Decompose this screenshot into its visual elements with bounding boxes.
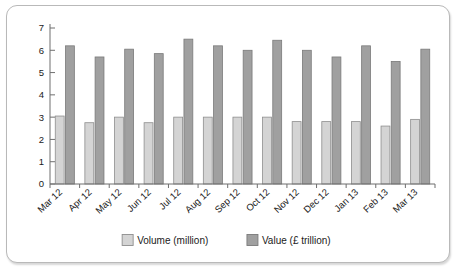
bar-volume-jul-12 [174, 117, 183, 184]
bar-volume-mar-12 [55, 116, 64, 184]
x-category-label: Jan 13 [332, 186, 360, 214]
bar-value-sep-12 [243, 50, 252, 184]
bar-value-jul-12 [184, 39, 193, 184]
x-category-label: Apr 12 [66, 186, 94, 213]
bar-value-aug-12 [214, 46, 223, 184]
y-tick-label: 4 [39, 89, 44, 100]
y-tick-label: 6 [39, 45, 44, 56]
bar-value-feb-13 [391, 61, 400, 184]
x-category-label: Aug 12 [183, 186, 213, 215]
bar-volume-mar-13 [411, 119, 420, 184]
chart-card: 01234567 Mar 12Apr 12May 12Jun 12Jul 12A… [6, 5, 450, 263]
x-category-label: Sep 12 [212, 186, 242, 215]
legend-swatch-value [247, 235, 258, 246]
bar-volume-dec-12 [322, 122, 331, 184]
y-tick-label: 7 [39, 22, 44, 33]
x-axis-category-labels: Mar 12Apr 12May 12Jun 12Jul 12Aug 12Sep … [35, 186, 420, 215]
bars-layer [55, 39, 429, 184]
bar-value-oct-12 [273, 40, 282, 184]
bar-volume-feb-13 [381, 126, 390, 184]
bar-value-mar-12 [65, 46, 74, 184]
y-tick-label: 5 [39, 67, 44, 78]
y-tick-label: 2 [39, 134, 44, 145]
bar-volume-jun-12 [144, 123, 153, 184]
x-category-label: May 12 [93, 186, 123, 215]
bar-value-jan-13 [362, 46, 371, 184]
legend-label: Volume (million) [137, 235, 208, 246]
x-category-label: Feb 13 [361, 186, 390, 214]
legend-swatch-volume [122, 235, 133, 246]
legend-label: Value (£ trillion) [262, 235, 331, 246]
bar-value-nov-12 [302, 50, 311, 184]
y-tick-label: 0 [39, 178, 44, 189]
bar-volume-jan-13 [351, 122, 360, 184]
bar-volume-aug-12 [203, 117, 212, 184]
y-tick-label: 1 [39, 156, 44, 167]
bar-value-dec-12 [332, 57, 341, 184]
x-category-label: Oct 12 [243, 186, 271, 213]
x-category-label: Mar 13 [390, 186, 419, 214]
y-axis-ticks: 01234567 [39, 22, 55, 189]
x-category-label: Nov 12 [272, 186, 302, 215]
grouped-bar-chart: 01234567 Mar 12Apr 12May 12Jun 12Jul 12A… [7, 6, 449, 262]
bar-value-jun-12 [154, 54, 163, 184]
bar-value-apr-12 [95, 57, 104, 184]
x-category-label: Jul 12 [157, 186, 183, 211]
x-category-label: Dec 12 [301, 186, 331, 215]
bar-volume-nov-12 [292, 122, 301, 184]
x-category-label: Jun 12 [125, 186, 153, 214]
chart-legend: Volume (million)Value (£ trillion) [122, 235, 331, 247]
y-tick-label: 3 [39, 112, 44, 123]
bar-value-may-12 [125, 49, 134, 184]
bar-volume-apr-12 [85, 123, 94, 184]
bar-volume-oct-12 [263, 117, 272, 184]
bar-volume-sep-12 [233, 117, 242, 184]
x-category-label: Mar 12 [35, 186, 64, 214]
bar-value-mar-13 [421, 49, 430, 184]
bar-volume-may-12 [114, 117, 123, 184]
x-axis-ticks [50, 184, 435, 188]
